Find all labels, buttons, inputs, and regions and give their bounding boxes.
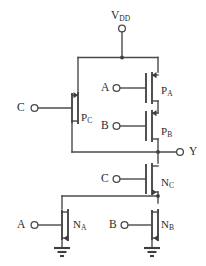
input-b-pmos-circle[interactable]: [113, 123, 120, 130]
input-b-pmos-label: B: [101, 120, 109, 132]
vdd-rail-junction-dot: [120, 56, 124, 60]
transistor-nc-label: NC: [161, 177, 174, 188]
transistor-pb-label: PB: [161, 126, 172, 137]
ground-nb: [144, 248, 160, 256]
input-c-nmos-circle[interactable]: [113, 176, 120, 183]
input-a-pmos-circle[interactable]: [113, 85, 120, 92]
transistor-na[interactable]: [38, 209, 68, 247]
nmos-shared-node: [62, 192, 160, 209]
transistor-pc[interactable]: [38, 92, 78, 124]
output-terminal-circle[interactable]: [177, 149, 184, 156]
input-c-pmos-circle[interactable]: [31, 105, 38, 112]
input-b-nmos-label: B: [109, 219, 117, 231]
transistor-nc[interactable]: [120, 163, 158, 195]
output-label: Y: [189, 146, 197, 158]
input-a-nmos-label: A: [17, 219, 25, 231]
input-a-pmos-label: A: [101, 82, 109, 94]
na-source-arrow: [64, 235, 69, 241]
input-a-nmos-circle[interactable]: [31, 222, 38, 229]
vdd-label: VDD: [111, 10, 130, 22]
transistor-nb[interactable]: [128, 209, 158, 247]
vdd-terminal-circle[interactable]: [119, 25, 126, 32]
nmos-shared-junction-dot: [156, 194, 160, 198]
nb-source-arrow: [154, 235, 159, 241]
circuit-diagram: VDD Y C A B C A B PC PA PB NC NA NB: [0, 0, 206, 266]
nc-source-arrow: [152, 189, 157, 195]
ground-na: [54, 248, 70, 256]
transistor-nb-label: NB: [161, 219, 174, 230]
input-c-pmos-label: C: [17, 102, 25, 114]
transistor-na-label: NA: [73, 219, 86, 230]
transistor-pa-label: PA: [161, 85, 173, 96]
transistor-pc-label: PC: [81, 112, 92, 123]
input-b-nmos-circle[interactable]: [121, 222, 128, 229]
input-c-nmos-label: C: [101, 173, 109, 185]
transistor-pa[interactable]: [120, 72, 158, 104]
transistor-pb[interactable]: [120, 101, 158, 142]
schematic-canvas: [0, 0, 206, 266]
